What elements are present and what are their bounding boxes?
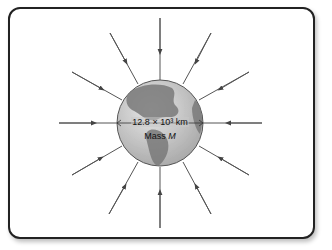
mass-label: Mass M	[131, 131, 189, 141]
diameter-label: 12.8 × 10³ km	[131, 117, 189, 127]
mass-label-prefix: Mass	[144, 131, 166, 141]
mass-symbol: M	[168, 131, 176, 141]
